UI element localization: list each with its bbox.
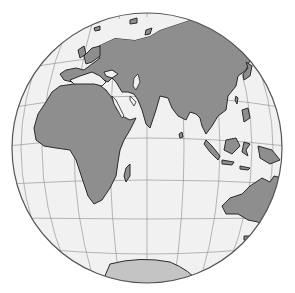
globe-map bbox=[0, 0, 295, 293]
